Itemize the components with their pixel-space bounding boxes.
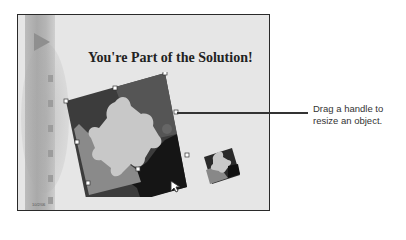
slide-title[interactable]: You're Part of the Solution! <box>88 50 268 66</box>
slide-date: 10/2/06 <box>32 202 45 207</box>
callout-leader-line <box>177 112 308 114</box>
resize-handle[interactable] <box>75 140 79 144</box>
puzzle-graphic-small[interactable] <box>190 140 240 190</box>
resize-handle[interactable] <box>185 153 189 157</box>
callout-line-2: resize an object. <box>313 115 383 127</box>
resize-handle[interactable] <box>86 181 90 185</box>
callout-line-1: Drag a handle to <box>313 103 383 115</box>
resize-handle[interactable] <box>136 167 140 171</box>
arrow-cursor-icon <box>170 180 182 194</box>
callout-annotation: Drag a handle to resize an object. <box>313 103 383 127</box>
play-triangle-icon <box>34 33 50 51</box>
